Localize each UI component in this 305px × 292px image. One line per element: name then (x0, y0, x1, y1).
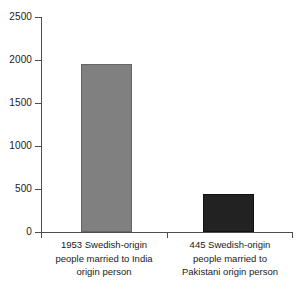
x-axis-category-label-1: 1953 Swedish-origin people married to In… (41, 238, 167, 279)
bar-chart: 2500 2000 1500 1000 500 0 1953 Swedish-o… (0, 0, 305, 292)
category-label-line: origin person (41, 265, 167, 279)
x-axis-category-label-2: 445 Swedish-origin people married to Pak… (167, 238, 293, 279)
y-axis-tick-label: 1000 (0, 141, 32, 151)
y-axis-tick-label: 2500 (0, 12, 32, 22)
category-label-line: 1953 Swedish-origin (41, 238, 167, 252)
category-label-line: 445 Swedish-origin (167, 238, 293, 252)
y-tick-mark-2500 (35, 17, 41, 18)
y-tick-mark-2000 (35, 60, 41, 61)
y-tick-mark-1500 (35, 103, 41, 104)
y-tick-mark-1000 (35, 146, 41, 147)
y-tick-mark-500 (35, 189, 41, 190)
category-label-line: Pakistani origin person (167, 265, 293, 279)
y-axis-tick-label: 2000 (0, 55, 32, 65)
y-axis-tick-label: 1500 (0, 98, 32, 108)
y-axis-tick-label: 0 (0, 227, 32, 237)
y-axis-line (41, 17, 42, 233)
category-label-line: people married to (167, 252, 293, 266)
y-axis-tick-label: 500 (0, 184, 32, 194)
bar-series-pakistan (203, 194, 254, 232)
category-label-line: people married to India (41, 252, 167, 266)
bar-series-india (81, 64, 132, 232)
